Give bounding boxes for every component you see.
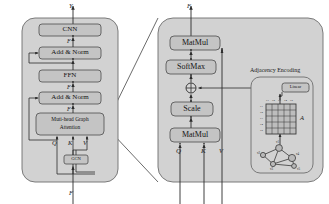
block-softmax-shape: [166, 60, 216, 74]
block-add-norm-1-shape: [39, 92, 101, 104]
add-operator-shape: [186, 83, 196, 93]
figure-canvas: Y CNN F Add & Norm FFN F Add & Norm F Mu…: [0, 0, 329, 204]
diagram-svg: [0, 0, 329, 204]
block-ffn-shape: [39, 70, 101, 82]
adjacency-linear-shape: [282, 83, 309, 92]
block-matmul-top-shape: [170, 36, 220, 50]
block-cnn-shape: [39, 24, 101, 36]
block-matmul-bottom-shape: [170, 128, 220, 142]
block-scale-shape: [171, 102, 213, 116]
block-add-norm-2-shape: [39, 47, 101, 59]
block-gcn-shape: [64, 155, 88, 164]
panel-expansion-connector: [112, 18, 158, 182]
block-mhga-shape: [36, 113, 104, 135]
adjacency-matrix-grid: [266, 104, 296, 134]
